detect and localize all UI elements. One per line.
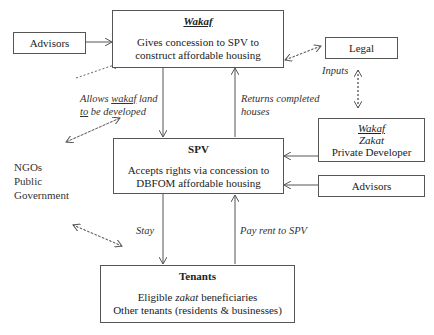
tenants-box: Tenants Eligible zakat beneficiaries Oth… (100, 265, 295, 323)
providers-zakat: Zakat (319, 134, 424, 146)
wakaf-line1: Gives concession to SPV to (113, 36, 283, 49)
advisors-right-label: Advisors (352, 180, 392, 192)
spv-box: SPV Accepts rights via concession to DBF… (113, 138, 284, 194)
wakaf-box: Wakaf Gives concession to SPV to constru… (112, 10, 284, 68)
wakaf-line2: construct affordable housing (113, 49, 283, 62)
legal-box: Legal (325, 37, 398, 59)
wakaf-title: Wakaf (113, 15, 283, 28)
tenants-line2: Other tenants (residents & businesses) (101, 304, 294, 317)
tenants-line1: Eligible zakat beneficiaries (101, 291, 294, 304)
pay-rent-label: Pay rent to SPV (240, 224, 307, 237)
allows-label: Allows wakaf land to be developed (80, 92, 158, 118)
tenants-title: Tenants (101, 270, 294, 283)
stakeholders-label: NGOs Public Government (14, 160, 69, 202)
legal-label: Legal (349, 42, 374, 54)
providers-private-developer: Private Developer (319, 146, 424, 158)
providers-wakaf: Wakaf (319, 122, 424, 134)
inputs-label: Inputs (322, 64, 348, 77)
stay-label: Stay (136, 224, 154, 237)
spv-line1: Accepts rights via concession to (114, 164, 283, 177)
spv-line2: DBFOM affordable housing (114, 177, 283, 190)
advisors-left-box: Advisors (13, 32, 86, 54)
providers-box: Wakaf Zakat Private Developer (318, 118, 425, 162)
returns-label: Returns completed houses (241, 92, 319, 118)
advisors-right-box: Advisors (318, 175, 425, 197)
spv-title: SPV (114, 143, 283, 156)
advisors-left-label: Advisors (30, 37, 70, 49)
